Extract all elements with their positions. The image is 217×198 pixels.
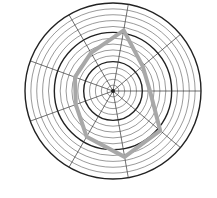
radar-center-dot: [111, 89, 115, 93]
radar-chart: [0, 0, 217, 198]
axis-spoke: [113, 91, 128, 178]
axis-spoke: [113, 4, 128, 91]
